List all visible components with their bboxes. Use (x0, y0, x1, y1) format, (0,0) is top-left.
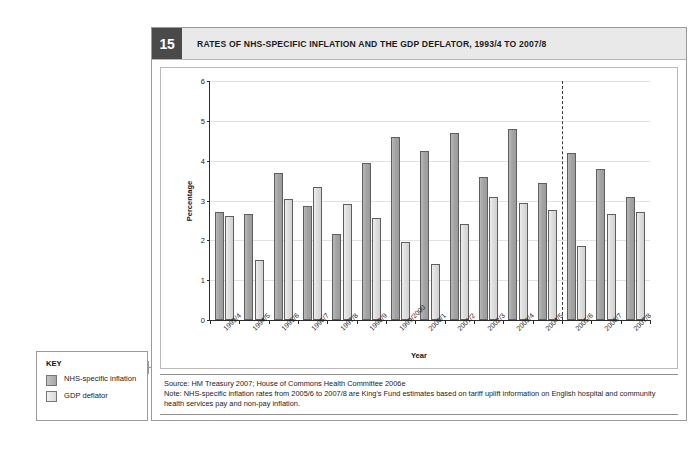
y-axis-tick-label: 4 (201, 156, 205, 165)
page-root: 15 RATES OF NHS-SPECIFIC INFLATION AND T… (0, 0, 695, 451)
y-axis-tick-label: 5 (201, 116, 205, 125)
plot-area: Percentage 0123456 1993/41994/51995/6199… (209, 81, 650, 321)
bar-group (562, 81, 591, 320)
bar-gdp-deflator (548, 210, 557, 320)
bar-group (298, 81, 327, 320)
page-title: RATES OF NHS-SPECIFIC INFLATION AND THE … (182, 28, 686, 59)
figure-header: 15 RATES OF NHS-SPECIFIC INFLATION AND T… (152, 28, 686, 60)
bar-gdp-deflator (636, 212, 645, 320)
x-axis-tick-mark (357, 320, 358, 324)
y-axis-tick-label: 3 (201, 196, 205, 205)
legend-label-nhs: NHS-specific inflation (64, 374, 136, 384)
bar-gdp-deflator (343, 204, 352, 320)
bar-group (239, 81, 268, 320)
bar-group (357, 81, 386, 320)
bar-gdp-deflator (460, 224, 469, 320)
x-axis-tick-mark (591, 320, 592, 324)
bar-group (415, 81, 444, 320)
x-axis-tick-mark (386, 320, 387, 324)
source-note-block: Source: HM Treasury 2007; House of Commo… (160, 374, 678, 415)
bar-gdp-deflator (607, 214, 616, 320)
legend-label-gdp: GDP deflator (64, 391, 108, 401)
legend-key-box: KEY NHS-specific inflation GDP deflator (36, 351, 148, 421)
x-axis-title: Year (161, 351, 677, 360)
bar-group (210, 81, 239, 320)
bar-group (503, 81, 532, 320)
x-axis-tick-mark (415, 320, 416, 324)
bar-nhs-specific-inflation (538, 183, 547, 320)
x-axis-tick-mark (650, 320, 651, 324)
x-axis-tick-mark (474, 320, 475, 324)
bar-nhs-specific-inflation (479, 177, 488, 320)
y-axis-tick-label: 1 (201, 276, 205, 285)
bar-nhs-specific-inflation (567, 153, 576, 320)
x-axis-tick-mark (269, 320, 270, 324)
y-axis-tick-label: 2 (201, 236, 205, 245)
source-text: Source: HM Treasury 2007; House of Commo… (164, 379, 674, 389)
x-axis-tick-mark (298, 320, 299, 324)
bar-group (327, 81, 356, 320)
bar-group (474, 81, 503, 320)
bar-nhs-specific-inflation (215, 212, 224, 320)
bar-group (533, 81, 562, 320)
bar-gdp-deflator (489, 197, 498, 320)
bar-nhs-specific-inflation (596, 169, 605, 320)
legend-item-nhs-specific-inflation: NHS-specific inflation (46, 374, 138, 386)
bar-gdp-deflator (431, 264, 440, 320)
bar-nhs-specific-inflation (450, 133, 459, 320)
note-text: Note: NHS-specific inflation rates from … (164, 389, 674, 409)
bar-nhs-specific-inflation (362, 163, 371, 320)
bar-nhs-specific-inflation (420, 151, 429, 320)
bar-gdp-deflator (577, 246, 586, 320)
bar-nhs-specific-inflation (626, 197, 635, 320)
x-axis-tick-mark (562, 320, 563, 324)
y-axis-tick-label: 6 (201, 77, 205, 86)
bar-group (445, 81, 474, 320)
forecast-divider-line (562, 81, 563, 320)
bar-group (621, 81, 650, 320)
legend-swatch-icon-gdp (46, 391, 57, 402)
chart-frame: Percentage 0123456 1993/41994/51995/6199… (160, 67, 678, 369)
y-axis-title: Percentage (185, 180, 194, 220)
bar-gdp-deflator (401, 242, 410, 320)
bar-nhs-specific-inflation (244, 214, 253, 320)
bar-nhs-specific-inflation (508, 129, 517, 320)
bar-group (591, 81, 620, 320)
figure-panel: 15 RATES OF NHS-SPECIFIC INFLATION AND T… (151, 27, 687, 421)
figure-number-badge: 15 (152, 28, 182, 59)
bar-gdp-deflator (284, 199, 293, 320)
x-axis-tick-mark (445, 320, 446, 324)
x-axis-tick-mark (210, 320, 211, 324)
bar-nhs-specific-inflation (391, 137, 400, 320)
bar-gdp-deflator (372, 218, 381, 320)
x-axis-tick-mark (503, 320, 504, 324)
bar-gdp-deflator (313, 187, 322, 320)
legend-item-gdp-deflator: GDP deflator (46, 391, 138, 403)
bar-gdp-deflator (519, 203, 528, 321)
bar-gdp-deflator (225, 216, 234, 320)
x-axis-tick-mark (533, 320, 534, 324)
y-axis-tick-label: 0 (201, 316, 205, 325)
bar-group (269, 81, 298, 320)
key-connector-horizontal (148, 367, 152, 368)
legend-title: KEY (46, 359, 138, 368)
bar-gdp-deflator (255, 260, 264, 320)
x-axis-tick-mark (239, 320, 240, 324)
legend-swatch-icon-nhs (46, 375, 57, 386)
x-axis-tick-mark (621, 320, 622, 324)
x-axis-tick-mark (327, 320, 328, 324)
bar-nhs-specific-inflation (332, 234, 341, 320)
bar-nhs-specific-inflation (303, 206, 312, 320)
bar-nhs-specific-inflation (274, 173, 283, 320)
bar-group (386, 81, 415, 320)
